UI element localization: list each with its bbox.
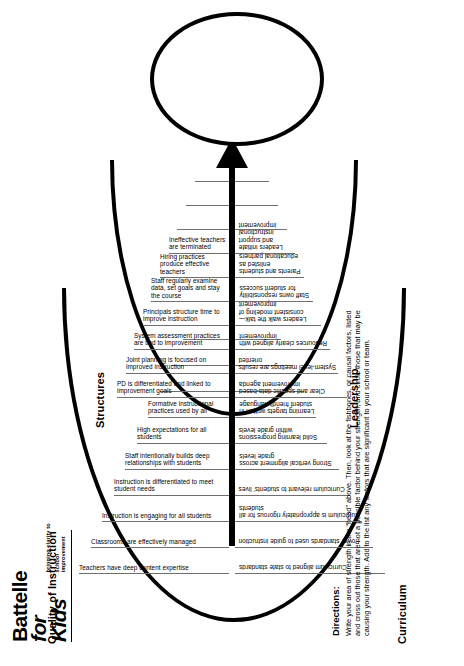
factor-bone[interactable] — [195, 181, 229, 182]
fishbone-head-ellipse[interactable] — [150, 12, 324, 146]
factor-label: Parents and students enlisted as educati… — [239, 253, 304, 275]
factor-label: Instruction is engaging for all students — [102, 512, 225, 519]
factor-label: Joint planning is focused on improved in… — [126, 356, 225, 371]
factor-bone[interactable]: Learning targets written in student frie… — [235, 417, 316, 418]
factor-bone[interactable]: Hiring practices produce effective teach… — [160, 277, 229, 278]
factor-bone[interactable] — [235, 229, 287, 230]
factor-bone[interactable]: Instruction is differentiated to meet st… — [114, 495, 229, 496]
battelle-for-kids-logo: Battelle for Kids bringing clarity to sc… — [10, 522, 72, 642]
factor-bone[interactable]: Ineffective teachers are terminated — [169, 253, 229, 254]
factor-label: Leaders walk the talk—consistent modelin… — [239, 301, 321, 323]
factor-label: Principals structure time to improve ins… — [143, 308, 225, 323]
factor-bone[interactable]: Principals structure time to improve ins… — [143, 325, 229, 326]
factor-bone[interactable] — [235, 205, 278, 206]
factor-bone[interactable]: Resources clearly aligned with improveme… — [235, 349, 330, 350]
fishbone-sheet: Battelle for Kids bringing clarity to sc… — [0, 0, 464, 666]
factor-bone[interactable] — [235, 181, 269, 182]
factor-bone[interactable] — [177, 229, 229, 230]
factor-label: Instruction is differentiated to meet st… — [114, 478, 225, 493]
category-label-quality-of-instruction: Quality of Instruction — [46, 531, 58, 644]
factor-label: Learning targets written in student frie… — [239, 400, 316, 415]
worksheet-page: Battelle for Kids bringing clarity to sc… — [0, 0, 464, 666]
factor-bone[interactable]: Joint planning is focused on improved in… — [126, 373, 229, 374]
factor-bone[interactable]: Solid learning progressions within grade… — [235, 443, 327, 444]
factor-label: Resources clearly aligned with improveme… — [239, 332, 330, 347]
category-label-curriculum: Curriculum — [396, 584, 408, 644]
factor-bone[interactable]: Teachers have deep content expertise — [79, 573, 229, 574]
factor-label: Strong vertical alignment across grade l… — [239, 452, 339, 467]
directions-heading: Directions: — [330, 306, 341, 636]
factor-label: Staff intentionally builds deep relation… — [125, 452, 225, 467]
factor-label: Solid learning progressions within grade… — [239, 426, 327, 441]
factor-bone[interactable]: Staff regularly examine data, set goals … — [151, 301, 229, 302]
factor-label: Staff owns responsibility for student su… — [239, 284, 313, 299]
factor-bone[interactable]: Strong vertical alignment across grade l… — [235, 469, 339, 470]
factor-label: Teachers have deep content expertise — [79, 564, 225, 571]
factor-bone[interactable]: Classrooms are effectively managed — [91, 547, 229, 548]
factor-bone[interactable]: Instruction is engaging for all students — [102, 521, 229, 522]
factor-bone[interactable]: Leaders walk the talk—consistent modelin… — [235, 325, 321, 326]
factor-label: PD is differentiated and linked to impro… — [117, 380, 225, 395]
factor-bone[interactable] — [186, 205, 229, 206]
factor-bone[interactable]: Formative instructional practices used b… — [148, 417, 229, 418]
factor-label: Formative instructional practices used b… — [148, 400, 225, 415]
factor-bone[interactable]: Leaders initiate and support instruction… — [235, 253, 295, 254]
factor-label: System assessment practices are tied to … — [134, 332, 225, 347]
factor-bone[interactable]: Staff intentionally builds deep relation… — [125, 469, 229, 470]
factor-label: Staff regularly examine data, set goals … — [151, 277, 225, 299]
factor-bone[interactable]: Parents and students enlisted as educati… — [235, 277, 304, 278]
factor-label: System-level meetings are results orient… — [239, 356, 338, 371]
directions-body: Write your area of strength in the “head… — [344, 306, 372, 636]
logo-underline — [71, 530, 72, 642]
factor-bone[interactable]: Staff owns responsibility for student su… — [235, 301, 313, 302]
factor-label: Hiring practices produce effective teach… — [160, 253, 225, 275]
factor-bone[interactable]: System assessment practices are tied to … — [134, 349, 229, 350]
factor-bone[interactable]: High expectations for all students — [137, 443, 229, 444]
factor-label: Ineffective teachers are terminated — [169, 236, 225, 251]
factor-bone[interactable]: System-level meetings are results orient… — [235, 373, 338, 374]
factor-label: High expectations for all students — [137, 426, 225, 441]
factor-label: Leaders initiate and support instruction… — [239, 221, 295, 251]
category-label-structures: Structures — [94, 372, 106, 428]
directions-block: Directions: Write your area of strength … — [330, 306, 372, 636]
factor-label: Classrooms are effectively managed — [91, 538, 225, 545]
factor-bone[interactable]: PD is differentiated and linked to impro… — [117, 397, 229, 398]
